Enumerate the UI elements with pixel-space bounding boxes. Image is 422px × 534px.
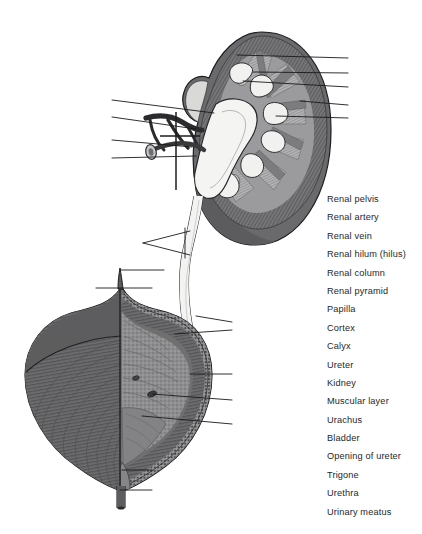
- diagram-page: Renal pelvis Renal artery Renal vein Ren…: [0, 0, 422, 534]
- urinary-meatus: [117, 506, 124, 509]
- label-renal-artery: Renal artery: [327, 208, 422, 226]
- label-renal-pyramid: Renal pyramid: [327, 282, 422, 300]
- label-renal-vein: Renal vein: [327, 227, 422, 245]
- label-urachus: Urachus: [327, 411, 422, 429]
- label-opening-of-ureter: Opening of ureter: [327, 447, 422, 465]
- label-trigone: Trigone: [327, 466, 422, 484]
- label-urinary-meatus: Urinary meatus: [327, 503, 422, 521]
- label-bladder: Bladder: [327, 429, 422, 447]
- label-renal-column: Renal column: [327, 264, 422, 282]
- label-urethra: Urethra: [327, 484, 422, 502]
- label-renal-pelvis: Renal pelvis: [327, 190, 422, 208]
- label-kidney: Kidney: [327, 374, 422, 392]
- urethra-tube: [117, 486, 125, 508]
- label-cortex: Cortex: [327, 319, 422, 337]
- label-renal-hilum: Renal hilum (hilus): [327, 245, 422, 263]
- label-calyx: Calyx: [327, 337, 422, 355]
- label-ureter: Ureter: [327, 356, 422, 374]
- label-muscular-layer: Muscular layer: [327, 392, 422, 410]
- label-papilla: Papilla: [327, 300, 422, 318]
- anatomy-label-list: Renal pelvis Renal artery Renal vein Ren…: [327, 190, 422, 521]
